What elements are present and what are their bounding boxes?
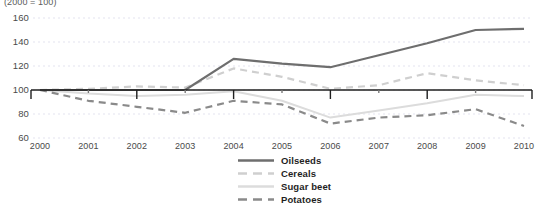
data-series-group bbox=[40, 29, 524, 126]
legend-label: Oilseeds bbox=[281, 155, 321, 166]
legend-swatch-icon bbox=[238, 155, 274, 166]
legend-item-oilseeds[interactable]: Oilseeds bbox=[238, 154, 331, 166]
chart-container: (2000 = 100) 6080100120140160 2000200120… bbox=[0, 0, 536, 214]
y-tick-label-120: 120 bbox=[3, 60, 29, 71]
legend-label: Cereals bbox=[281, 168, 316, 179]
legend-item-potatoes[interactable]: Potatoes bbox=[238, 193, 331, 205]
legend-item-sugar-beet[interactable]: Sugar beet bbox=[238, 180, 331, 192]
legend-swatch-icon bbox=[238, 181, 274, 192]
legend-swatch-icon bbox=[238, 194, 274, 205]
y-tick-label-160: 160 bbox=[3, 12, 29, 23]
x-tick-label-2009: 2009 bbox=[456, 141, 496, 151]
legend-label: Sugar beet bbox=[281, 181, 331, 192]
y-tick-label-140: 140 bbox=[3, 36, 29, 47]
x-tick-label-2006: 2006 bbox=[310, 141, 350, 151]
x-tick-label-2007: 2007 bbox=[359, 141, 399, 151]
x-tick-label-2008: 2008 bbox=[407, 141, 447, 151]
legend-item-cereals[interactable]: Cereals bbox=[238, 167, 331, 179]
x-tick-label-2003: 2003 bbox=[165, 141, 205, 151]
y-tick-label-80: 80 bbox=[3, 108, 29, 119]
series-line-oilseeds bbox=[40, 29, 524, 90]
x-tick-label-2004: 2004 bbox=[214, 141, 254, 151]
series-line-cereals bbox=[40, 68, 524, 90]
legend-label: Potatoes bbox=[281, 194, 322, 205]
x-tick-label-2010: 2010 bbox=[504, 141, 536, 151]
x-tick-label-2000: 2000 bbox=[20, 141, 60, 151]
x-tick-label-2002: 2002 bbox=[117, 141, 157, 151]
x-tick-label-2005: 2005 bbox=[262, 141, 302, 151]
legend-swatch-icon bbox=[238, 168, 274, 179]
y-tick-label-100: 100 bbox=[3, 84, 29, 95]
x-tick-label-2001: 2001 bbox=[68, 141, 108, 151]
chart-legend: OilseedsCerealsSugar beetPotatoes bbox=[238, 154, 331, 205]
